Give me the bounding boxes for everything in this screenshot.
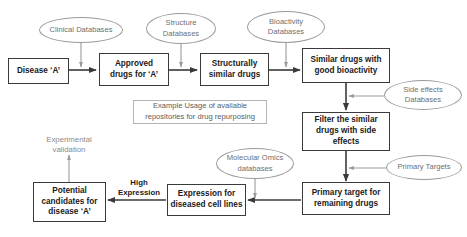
database-node-molecular-omics-databases-line1: Molecular Omics: [227, 153, 284, 163]
process-node-approved-drugs[interactable]: Approved drugs for ‘A’: [99, 53, 169, 86]
process-node-filter-side-effects-line3: effects: [314, 137, 377, 148]
process-node-similar-bioactivity-line1: Similar drugs with: [311, 55, 382, 66]
database-node-primary-targets[interactable]: Primary Targets: [386, 155, 462, 180]
process-node-disease[interactable]: Disease ‘A’: [8, 58, 69, 84]
diagram-caption-line1: Example Usage of available: [145, 101, 255, 112]
database-node-structure-databases-line1: Structure: [163, 18, 199, 28]
process-node-filter-side-effects[interactable]: Filter the similar drugs with side effec…: [302, 112, 390, 151]
process-node-structurally-similar[interactable]: Structurally similar drugs: [200, 53, 269, 86]
label-experimental-validation-line1: Experimental: [46, 135, 92, 145]
label-experimental-validation-line2: validation: [46, 145, 92, 155]
database-node-structure-databases-line2: Databases: [163, 29, 199, 39]
database-node-molecular-omics-databases[interactable]: Molecular Omics databases: [216, 148, 294, 179]
process-node-structurally-similar-line1: Structurally: [209, 59, 260, 70]
process-node-potential-candidates-line3: disease ‘A’: [42, 207, 98, 218]
database-node-bioactivity-databases-line2: Databases: [268, 27, 304, 37]
process-node-filter-side-effects-line1: Filter the similar: [314, 115, 377, 126]
process-node-similar-bioactivity-line2: good bioactivity: [311, 66, 382, 77]
database-node-bioactivity-databases-line1: Bioactivity: [268, 17, 304, 27]
process-node-primary-target-line2: remaining drugs: [312, 199, 381, 210]
database-node-side-effects-databases[interactable]: Side effects Databases: [384, 80, 462, 110]
label-experimental-validation: Experimental validation: [28, 134, 110, 156]
process-node-potential-candidates-line1: Potential: [42, 186, 98, 197]
label-high-expression: High Expression: [113, 177, 165, 199]
database-node-side-effects-databases-line1: Side effects: [403, 85, 443, 95]
process-node-primary-target-line1: Primary target for: [312, 188, 381, 199]
database-node-clinical-databases-line1: Clinical Databases: [50, 25, 113, 34]
database-node-structure-databases[interactable]: Structure Databases: [146, 13, 216, 44]
process-node-similar-bioactivity[interactable]: Similar drugs with good bioactivity: [302, 48, 390, 83]
label-high-expression-line2: Expression: [118, 188, 160, 198]
process-node-approved-drugs-line1: Approved: [110, 59, 158, 70]
process-node-filter-side-effects-line2: drugs with side: [314, 126, 377, 137]
database-node-side-effects-databases-line2: Databases: [403, 95, 443, 105]
process-node-expression-cell-lines-line2: diseased cell lines: [171, 200, 243, 211]
process-node-potential-candidates-line2: candidates for: [42, 197, 98, 208]
diagram-caption-line2: repositories for drug repurposing: [145, 112, 255, 123]
process-node-primary-target[interactable]: Primary target for remaining drugs: [302, 182, 390, 215]
process-node-expression-cell-lines-line1: Expression for: [171, 189, 243, 200]
process-node-disease-line1: Disease ‘A’: [17, 66, 60, 75]
database-node-primary-targets-line1: Primary Targets: [397, 162, 450, 171]
diagram-canvas: Disease ‘A’ Approved drugs for ‘A’ Struc…: [0, 0, 467, 237]
process-node-expression-cell-lines[interactable]: Expression for diseased cell lines: [167, 184, 246, 216]
database-node-clinical-databases[interactable]: Clinical Databases: [39, 17, 123, 43]
label-high-expression-line1: High: [118, 178, 160, 188]
process-node-structurally-similar-line2: similar drugs: [209, 70, 260, 81]
diagram-caption-box: Example Usage of available repositories …: [133, 100, 267, 124]
process-node-potential-candidates[interactable]: Potential candidates for disease ‘A’: [33, 182, 106, 222]
database-node-bioactivity-databases[interactable]: Bioactivity Databases: [247, 11, 325, 43]
process-node-approved-drugs-line2: drugs for ‘A’: [110, 70, 158, 81]
database-node-molecular-omics-databases-line2: databases: [227, 164, 284, 174]
